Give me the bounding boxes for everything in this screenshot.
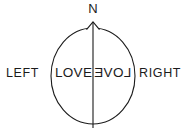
side-label-right: RIGHT [139, 67, 181, 80]
hemisphere-word-left: LOVE [55, 66, 92, 80]
head-orientation-diagram: N LEFT RIGHT LOVE LOVE [0, 0, 186, 135]
hemisphere-word-right-mirrored: LOVE [94, 66, 131, 80]
side-label-left: LEFT [6, 67, 39, 80]
orientation-label-north: N [0, 2, 186, 15]
